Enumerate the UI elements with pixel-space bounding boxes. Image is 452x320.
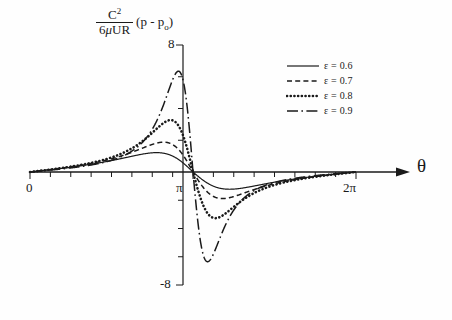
legend-item-1[interactable]: ε = 0.7 xyxy=(286,73,398,88)
pressure-term-close: ) xyxy=(169,14,173,29)
x-tick-label-pi: π xyxy=(176,180,183,196)
legend-label-0: ε = 0.6 xyxy=(324,60,353,71)
legend: ε = 0.6ε = 0.7ε = 0.8ε = 0.9 xyxy=(286,58,398,118)
legend-label-3: ε = 0.9 xyxy=(324,105,353,116)
y-tick-label-negative-8: -8 xyxy=(160,276,171,292)
x-tick-label-two-pi: 2π xyxy=(343,180,356,196)
y-axis-label-numerator-base: C xyxy=(108,7,117,22)
y-axis-label: C2 6μUR (p - po) xyxy=(96,8,173,36)
y-tick-label-positive-8: 8 xyxy=(168,36,175,52)
legend-line-sample-2 xyxy=(286,91,320,101)
y-axis-label-pressure-term: (p - po) xyxy=(136,15,173,29)
x-axis-arrowhead xyxy=(396,168,410,177)
legend-line-sample-3 xyxy=(286,106,320,116)
denominator-UR: UR xyxy=(112,22,130,37)
y-axis-label-numerator: C2 xyxy=(105,8,124,22)
plot-canvas xyxy=(0,0,452,320)
legend-item-0[interactable]: ε = 0.6 xyxy=(286,58,398,73)
legend-item-2[interactable]: ε = 0.8 xyxy=(286,88,398,103)
legend-label-1: ε = 0.7 xyxy=(324,75,353,86)
figure-container: C2 6μUR (p - po) 8 -8 0 π 2π θ ε = 0.6ε … xyxy=(0,0,452,320)
x-tick-label-zero: 0 xyxy=(26,180,33,196)
y-axis-label-denominator: 6μUR xyxy=(96,23,133,37)
x-axis-symbol-theta: θ xyxy=(417,155,426,177)
pressure-term-open: (p - p xyxy=(136,14,164,29)
legend-line-sample-0 xyxy=(286,61,320,71)
legend-label-2: ε = 0.8 xyxy=(324,90,353,101)
y-axis-label-fraction: C2 6μUR xyxy=(96,8,133,36)
legend-item-3[interactable]: ε = 0.9 xyxy=(286,103,398,118)
legend-line-sample-1 xyxy=(286,76,320,86)
y-axis-label-numerator-exponent: 2 xyxy=(117,6,122,16)
